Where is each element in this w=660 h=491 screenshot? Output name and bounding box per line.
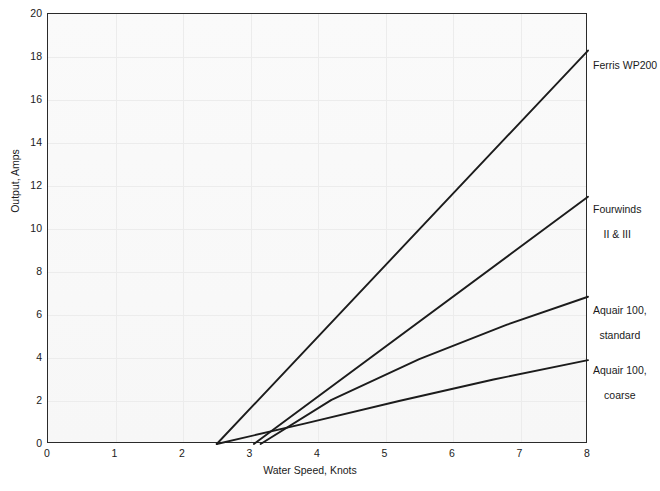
series-label-ferris-wp200: Ferris WP200 [593,46,657,84]
x-tick-6: 6 [432,447,472,460]
x-tick-3: 3 [230,447,270,460]
y-tick-4: 4 [4,352,42,363]
series-label-aquair-standard: Aquair 100, standard [593,291,647,354]
y-axis-ticks: 0 2 4 6 8 10 12 14 16 18 20 [0,13,42,443]
chart-page: 0 2 4 6 8 10 12 14 16 18 20 Output, Amps [0,0,660,491]
x-axis-title: Water Speed, Knots [0,464,660,476]
y-tick-6: 6 [4,309,42,320]
x-tick-0: 0 [27,447,67,460]
series-curves [48,14,588,444]
series-label-fourwinds-line2: II & III [593,228,641,241]
y-axis-title: Output, Amps [9,121,21,241]
series-label-ferris-line1: Ferris WP200 [593,59,657,72]
x-tick-7: 7 [500,447,540,460]
y-tick-2: 2 [4,395,42,406]
series-label-aquair-standard-line1: Aquair 100, [593,304,647,317]
series-label-aquair-coarse-line1: Aquair 100, [593,364,647,377]
x-axis-title-text: Water Speed, Knots [263,464,357,476]
x-tick-2: 2 [162,447,202,460]
series-label-aquair-coarse: Aquair 100, coarse [593,351,647,414]
cropped-header-fragment [0,0,660,9]
x-tick-5: 5 [365,447,405,460]
series-label-aquair-coarse-line2: coarse [593,389,647,402]
series-label-fourwinds: Fourwinds II & III [593,190,641,253]
y-tick-16: 16 [4,94,42,105]
y-tick-20: 20 [4,8,42,19]
x-tick-4: 4 [297,447,337,460]
series-label-fourwinds-line1: Fourwinds [593,203,641,216]
curve-fourwinds-ii-iii [254,197,588,444]
x-tick-1: 1 [95,447,135,460]
y-tick-18: 18 [4,51,42,62]
curve-aquair-100-coarse [217,360,588,444]
curve-ferris-wp200 [217,51,588,444]
x-tick-8: 8 [567,447,607,460]
x-axis-ticks: 0 1 2 3 4 5 6 7 8 [47,447,587,463]
y-tick-8: 8 [4,266,42,277]
series-label-aquair-standard-line2: standard [593,329,647,342]
plot-area [47,13,587,443]
